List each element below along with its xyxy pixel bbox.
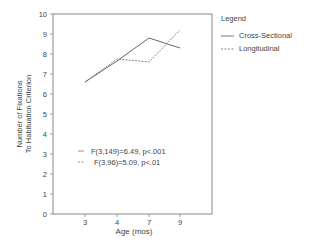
annotation-cross: F(3,149)=6.49, p<.001 (91, 147, 166, 156)
series-lines (85, 30, 180, 82)
legend-entry-cross: Cross-Sectional (239, 31, 292, 40)
x-tick-label: 9 (178, 218, 182, 227)
y-axis-label: Number of Fixations To Habituation Crite… (15, 75, 33, 153)
y-tick-label: 3 (43, 150, 47, 159)
y-tick-label: 9 (43, 30, 47, 39)
y-tick-label: 6 (43, 90, 47, 99)
x-axis: 3479 (83, 214, 182, 227)
legend-entry-long: Longitudinal (239, 44, 280, 53)
svg-text:To Habituation Criterion: To Habituation Criterion (24, 75, 33, 153)
legend: Legend Cross-Sectional Longitudinal (221, 14, 292, 53)
chart: 012345678910 3479 Number of Fixations To… (0, 0, 318, 249)
legend-title: Legend (221, 14, 246, 23)
plot-frame (53, 14, 212, 214)
line-longitudinal (85, 30, 180, 82)
line-cross-sectional (85, 38, 180, 82)
annotations: F(3,149)=6.49, p<.001 F(3,96)=5.09, p<.0… (78, 147, 166, 167)
y-tick-label: 2 (43, 170, 47, 179)
x-tick-label: 4 (115, 218, 119, 227)
x-axis-label: Age (mos) (116, 227, 153, 236)
x-tick-label: 7 (147, 218, 151, 227)
y-axis: 012345678910 (39, 10, 53, 219)
y-tick-label: 7 (43, 70, 47, 79)
y-tick-label: 5 (43, 110, 47, 119)
y-tick-label: 0 (43, 210, 47, 219)
svg-text:Number of Fixations: Number of Fixations (15, 80, 24, 147)
y-tick-label: 8 (43, 50, 47, 59)
y-tick-label: 1 (43, 190, 47, 199)
x-tick-label: 3 (83, 218, 87, 227)
annotation-long: F(3,96)=5.09, p<.01 (94, 158, 160, 167)
y-tick-label: 10 (39, 10, 47, 19)
y-tick-label: 4 (43, 130, 47, 139)
